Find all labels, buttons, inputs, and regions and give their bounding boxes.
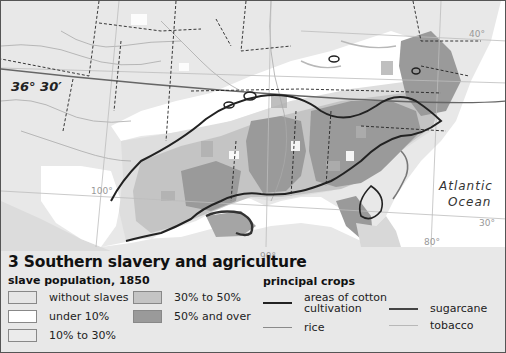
legend-swatch (8, 310, 37, 323)
legend-swatch (8, 291, 37, 304)
latitude-label: 36° 30′ (11, 79, 62, 94)
ocean-label-ocean: Ocean (448, 195, 491, 209)
graticule-label-lat-30: 30° (479, 218, 495, 228)
cotton-line-icon (263, 302, 292, 304)
legend-label: 30% to 50% (174, 291, 241, 304)
legend-item-cotton: areas of cotton cultivation (263, 292, 387, 314)
legend-label: 10% to 30% (49, 329, 116, 342)
map-frame: 36° 30′ Atlantic Ocean 40° 30° 100° 90° … (0, 0, 506, 353)
legend-label: without slaves (49, 291, 128, 304)
sugarcane-line-icon (389, 308, 418, 310)
legend-item-10-30: 10% to 30% (8, 329, 116, 342)
graticule-label-lon-100: 100° (91, 186, 113, 196)
rice-line-icon (263, 327, 292, 328)
legend-item-50-over: 50% and over (133, 310, 251, 323)
ocean-label-atlantic: Atlantic (439, 179, 493, 193)
graticule-label-lat-40: 40° (469, 29, 485, 39)
legend-item-under-10: under 10% (8, 310, 109, 323)
legend-label: tobacco (430, 319, 474, 332)
legend-label: cultivation (304, 303, 387, 314)
legend-label: under 10% (49, 310, 109, 323)
map-title: 3 Southern slavery and agriculture (8, 253, 307, 271)
legend-swatch (133, 291, 162, 304)
legend-label: sugarcane (430, 302, 487, 315)
legend-label: 50% and over (174, 310, 251, 323)
legend-swatch (133, 310, 162, 323)
legend-item-rice: rice (263, 321, 324, 334)
legend-swatch (8, 329, 37, 342)
tobacco-line-icon (389, 325, 418, 326)
legend-item-without-slaves: without slaves (8, 291, 128, 304)
crops-title: principal crops (263, 275, 355, 288)
legend-label: rice (304, 321, 324, 334)
graticule-label-lon-80: 80° (424, 237, 440, 247)
legend-item-30-50: 30% to 50% (133, 291, 241, 304)
legend-subtitle: slave population, 1850 (8, 274, 150, 287)
legend-item-tobacco: tobacco (389, 319, 474, 332)
legend-item-sugarcane: sugarcane (389, 302, 487, 315)
